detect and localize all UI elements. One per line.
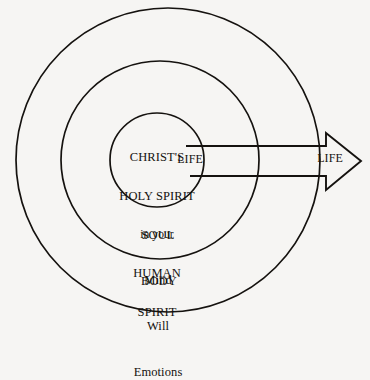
soul-line-soul: SOUL	[110, 228, 206, 243]
soul-line-emotions: Emotions	[110, 365, 206, 380]
soul-line-will: Will	[110, 319, 206, 334]
body-label: BODY	[128, 275, 190, 288]
life-arrow-label: LIFE	[311, 152, 349, 164]
soul-label-group: SOUL Mind Will Emotions	[110, 197, 206, 380]
life-inner-label: LIFE	[172, 153, 208, 165]
